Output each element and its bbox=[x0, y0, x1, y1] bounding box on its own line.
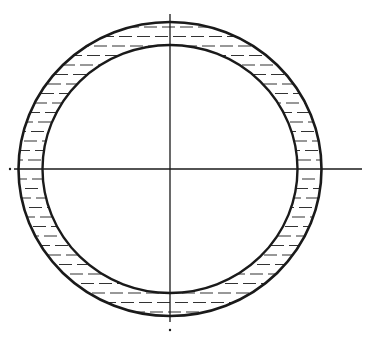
ring-diagram bbox=[0, 0, 374, 341]
vertical-axis-end-dot bbox=[169, 329, 171, 331]
horizontal-axis-end-dot bbox=[9, 168, 11, 170]
ring-cross-section-drawing bbox=[0, 0, 374, 341]
